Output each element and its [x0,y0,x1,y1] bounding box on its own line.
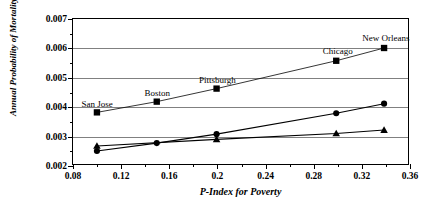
series-layer [73,19,408,164]
point-label: San Jose [81,99,112,109]
data-point-circle [333,110,339,116]
series-line-triangle [97,130,384,146]
point-label: Chicago [323,46,353,56]
data-point-square [154,98,160,104]
x-tick-label: 0.32 [354,171,371,181]
data-point-square [333,58,339,64]
x-tick-major [410,164,411,169]
x-tick-label: 0.16 [161,171,178,181]
data-point-triangle [380,126,388,133]
x-tick-minor [193,164,194,167]
point-label: Boston [144,88,170,98]
y-axis-title: Annual Probability of Mortality [8,0,18,132]
x-tick-major [362,164,363,169]
y-tick-label: 0.007 [46,14,67,24]
point-label: Pittsburgh [199,75,236,85]
x-tick-major [121,164,122,169]
series-line-square [97,48,384,112]
data-point-square [381,45,387,51]
x-axis-title: P-Index for Poverty [72,186,409,197]
y-tick-label: 0.003 [46,132,67,142]
x-tick-major [314,164,315,169]
plot-area: 0.0020.0030.0040.0050.0060.007 0.080.120… [72,18,409,165]
x-tick-label: 0.2 [211,171,223,181]
x-tick-label: 0.12 [113,171,130,181]
x-tick-minor [97,164,98,167]
x-tick-major [73,164,74,169]
x-tick-major [169,164,170,169]
x-tick-label: 0.24 [257,171,274,181]
x-tick-major [266,164,267,169]
x-tick-major [217,164,218,169]
x-tick-minor [386,164,387,167]
x-tick-label: 0.28 [305,171,322,181]
x-tick-label: 0.08 [65,171,82,181]
data-point-square [94,109,100,115]
x-tick-minor [145,164,146,167]
y-tick-label: 0.006 [46,43,67,53]
data-point-circle [381,101,387,107]
x-tick-minor [338,164,339,167]
y-tick-label: 0.004 [46,102,67,112]
chart-root: Annual Probability of Mortality 0.0020.0… [0,0,433,217]
y-tick-label: 0.002 [46,161,67,171]
y-tick-label: 0.005 [46,73,67,83]
point-label: New Orleans [362,33,409,43]
data-point-square [213,85,219,91]
x-tick-label: 0.36 [402,171,419,181]
x-tick-minor [290,164,291,167]
x-tick-minor [242,164,243,167]
